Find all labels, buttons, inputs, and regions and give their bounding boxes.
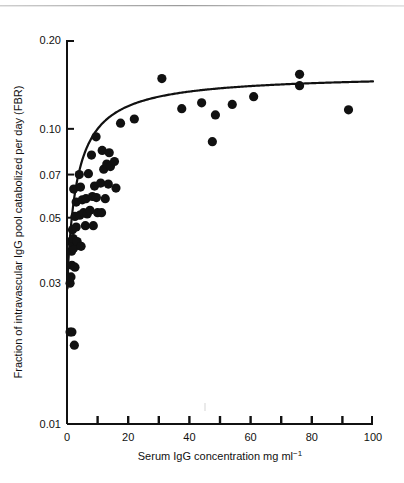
data-points (65, 70, 353, 350)
data-point (249, 92, 258, 101)
x-tick-label-60: 60 (244, 431, 256, 443)
data-point (84, 169, 93, 178)
x-tick-label-100: 100 (364, 431, 382, 443)
data-point (130, 114, 139, 123)
x-axis-title-text: Serum IgG concentration mg ml (138, 450, 293, 462)
data-point (101, 194, 110, 203)
data-point (116, 119, 125, 128)
data-point (295, 81, 304, 90)
data-point (208, 137, 217, 146)
data-point (76, 182, 85, 191)
y-tick-label-0.01: 0.01 (40, 418, 61, 430)
data-point (211, 110, 220, 119)
data-point (76, 242, 85, 251)
x-tick-label-0: 0 (64, 431, 70, 443)
scan-artifact (204, 403, 206, 411)
x-axis-title: Serum IgG concentration mg ml−1 (138, 449, 303, 462)
data-point (197, 98, 206, 107)
data-point (157, 74, 166, 83)
data-point (97, 208, 106, 217)
y-tick-label-0.03: 0.03 (40, 277, 61, 289)
data-point (92, 193, 101, 202)
data-point (87, 150, 96, 159)
x-axis-ticks (98, 416, 343, 424)
y-tick-label-0.10: 0.10 (40, 123, 61, 135)
data-point (66, 272, 75, 281)
data-point (177, 104, 186, 113)
data-point (110, 157, 119, 166)
x-tick-label-80: 80 (306, 431, 318, 443)
x-axis-tick-labels: 020406080100 (64, 431, 382, 443)
figure-container: 0.010.030.050.070.100.20 020406080100 Fr… (0, 0, 404, 483)
data-point (111, 183, 120, 192)
data-point (105, 148, 114, 157)
data-point (295, 70, 304, 79)
data-point (75, 170, 84, 179)
data-point (91, 132, 100, 141)
data-point (81, 221, 90, 230)
data-point (70, 263, 79, 272)
y-tick-label-0.20: 0.20 (40, 34, 61, 46)
x-axis-title-superscript: −1 (293, 449, 303, 458)
data-point (89, 221, 98, 230)
data-point (344, 105, 353, 114)
y-tick-label-0.07: 0.07 (40, 169, 61, 181)
data-point (228, 100, 237, 109)
top-divider-rule-shadow (0, 6, 404, 7)
y-axis-title: Fraction of intravascular IgG pool catab… (12, 86, 24, 379)
data-point (67, 327, 76, 336)
data-point (70, 341, 79, 350)
scatter-plot-svg: 0.010.030.050.070.100.20 020406080100 Fr… (0, 0, 404, 483)
y-axis-tick-labels: 0.010.030.050.070.100.20 (40, 34, 61, 430)
y-tick-label-0.05: 0.05 (40, 212, 61, 224)
x-tick-label-20: 20 (122, 431, 134, 443)
data-point (72, 222, 81, 231)
x-tick-label-40: 40 (183, 431, 195, 443)
